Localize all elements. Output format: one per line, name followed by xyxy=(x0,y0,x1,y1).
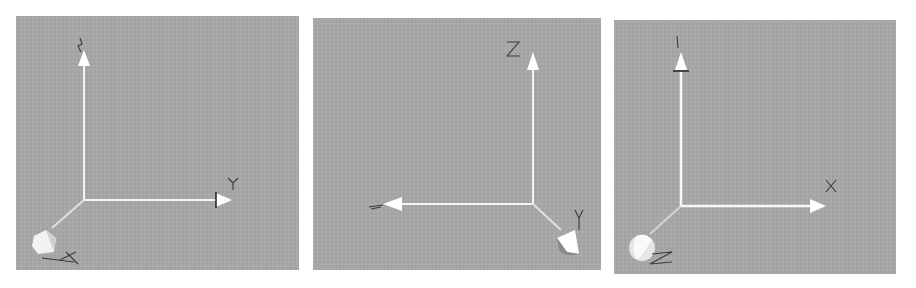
z-axis-label xyxy=(507,42,520,56)
y-axis xyxy=(84,178,238,208)
x-axis-label-edge-on xyxy=(369,205,383,209)
z-axis-label-edge-on xyxy=(78,38,82,52)
axis-triad-2 xyxy=(313,18,601,270)
viewport-panel-2 xyxy=(313,18,601,270)
axis-triad-1 xyxy=(16,16,299,270)
viewport-panel-3 xyxy=(614,20,896,274)
y-axis-label-edge-on xyxy=(677,36,678,48)
z-axis xyxy=(78,38,90,200)
y-axis-label xyxy=(575,210,583,230)
x-axis xyxy=(369,197,533,211)
x-axis-label xyxy=(826,180,836,192)
axis-triad-3 xyxy=(614,20,896,274)
z-axis-label xyxy=(650,252,672,264)
y-axis xyxy=(533,204,583,255)
x-axis xyxy=(32,200,84,264)
x-axis-label xyxy=(42,252,78,264)
x-axis xyxy=(681,180,836,213)
y-axis xyxy=(673,36,689,206)
z-axis xyxy=(629,206,681,264)
viewport-panel-1 xyxy=(16,16,299,270)
z-axis xyxy=(507,42,539,204)
y-axis-label xyxy=(228,178,238,190)
